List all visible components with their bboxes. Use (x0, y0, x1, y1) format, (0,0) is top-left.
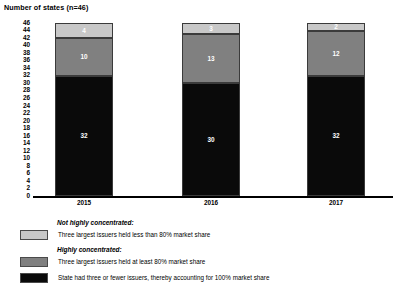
bar-value-label: 12 (332, 50, 339, 57)
bar-value-label: 10 (80, 53, 87, 60)
bar-segment-dark-2017[interactable]: 32 (307, 76, 365, 196)
bar-segment-light-2016[interactable]: 3 (182, 23, 240, 34)
bar-value-label: 30 (207, 136, 214, 143)
bar-value-label: 32 (332, 132, 339, 139)
legend-swatch-mid (20, 257, 48, 267)
legend-item-dark: State had three or fewer issuers, thereb… (20, 272, 380, 284)
y-axis-tick-38: 38 (4, 50, 30, 56)
x-axis-label-2017: 2017 (307, 199, 365, 206)
y-axis-tick-12: 12 (4, 148, 30, 154)
y-axis-tick-20: 20 (4, 118, 30, 124)
y-axis-tick-42: 42 (4, 35, 30, 41)
bar-segment-mid-2015[interactable]: 10 (55, 38, 113, 76)
y-axis-tick-0: 0 (4, 193, 30, 199)
y-axis-tick-24: 24 (4, 103, 30, 109)
plot-area: 4644424038363432302826242220181614121086… (0, 0, 406, 206)
legend-swatch-dark (20, 273, 48, 283)
bar-2016[interactable]: 30133 (182, 0, 240, 196)
bar-segment-dark-2015[interactable]: 32 (55, 76, 113, 196)
bar-value-label: 2 (334, 23, 338, 30)
y-axis-tick-16: 16 (4, 133, 30, 139)
x-axis-line (33, 196, 393, 198)
legend-group-highly-concentrated: Highly concentrated: (57, 246, 122, 253)
bar-value-label: 4 (82, 27, 86, 34)
bar-segment-mid-2017[interactable]: 12 (307, 31, 365, 76)
legend-group-not-concentrated: Not highly concentrated: (57, 219, 134, 226)
y-axis-tick-40: 40 (4, 42, 30, 48)
y-axis-tick-22: 22 (4, 110, 30, 116)
legend-label-mid: Three largest issuers held at least 80% … (58, 258, 205, 266)
stacked-bar-chart: Number of states (n=46) 4644424038363432… (0, 0, 406, 288)
y-axis-tick-6: 6 (4, 170, 30, 176)
y-axis-tick-32: 32 (4, 72, 30, 78)
chart-legend: Not highly concentrated: Three largest i… (0, 206, 406, 288)
y-axis-tick-36: 36 (4, 57, 30, 63)
y-axis-tick-28: 28 (4, 87, 30, 93)
legend-swatch-light (20, 230, 48, 240)
y-axis-tick-18: 18 (4, 125, 30, 131)
bar-segment-light-2017[interactable]: 2 (307, 23, 365, 31)
bar-segment-mid-2016[interactable]: 13 (182, 34, 240, 83)
y-axis-tick-26: 26 (4, 95, 30, 101)
x-axis-label-2015: 2015 (55, 199, 113, 206)
y-axis-tick-4: 4 (4, 178, 30, 184)
bar-2017[interactable]: 32122 (307, 0, 365, 196)
y-axis-tick-46: 46 (4, 20, 30, 26)
bar-value-label: 13 (207, 55, 214, 62)
bar-2015[interactable]: 32104 (55, 0, 113, 196)
y-axis-tick-34: 34 (4, 65, 30, 71)
legend-item-mid: Three largest issuers held at least 80% … (20, 256, 380, 268)
y-axis-tick-10: 10 (4, 155, 30, 161)
legend-label-light: Three largest issuers held less than 80%… (58, 231, 210, 239)
bar-value-label: 32 (80, 132, 87, 139)
bar-value-label: 3 (209, 25, 213, 32)
x-axis-label-2016: 2016 (182, 199, 240, 206)
y-axis-tick-30: 30 (4, 80, 30, 86)
y-axis-tick-14: 14 (4, 140, 30, 146)
bar-segment-light-2015[interactable]: 4 (55, 23, 113, 38)
legend-label-dark: State had three or fewer issuers, thereb… (58, 274, 269, 282)
bar-segment-dark-2016[interactable]: 30 (182, 83, 240, 196)
legend-item-light: Three largest issuers held less than 80%… (20, 229, 380, 241)
y-axis-tick-2: 2 (4, 185, 30, 191)
y-axis-tick-44: 44 (4, 27, 30, 33)
y-axis-tick-8: 8 (4, 163, 30, 169)
